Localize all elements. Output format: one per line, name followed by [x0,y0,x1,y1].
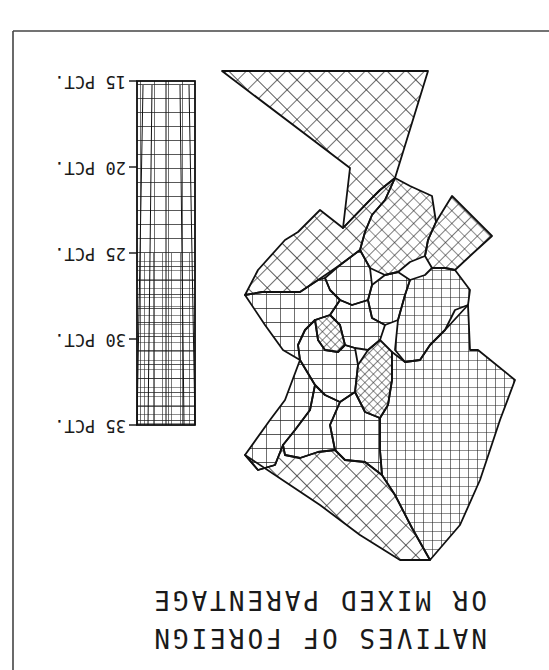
map-title: NATIVES OF FOREIGN OR MIXED PARENTAGE [151,585,487,653]
tract-northeast-tip [425,196,492,270]
title-line-1: NATIVES OF FOREIGN [151,623,487,653]
legend-label-30: 30 PCT. [54,330,126,350]
legend-label-15: 15 PCT. [54,72,126,92]
choropleth-map [222,71,515,560]
legend [129,81,195,425]
title-line-2: OR MIXED PARENTAGE [151,585,487,615]
legend-label-25: 25 PCT. [54,244,126,264]
legend-label-35: 35 PCT. [54,416,126,436]
map-figure: 15 PCT. 20 PCT. 25 PCT. 30 PCT. 35 PCT. … [0,0,549,670]
legend-labels: 15 PCT. 20 PCT. 25 PCT. 30 PCT. 35 PCT. [54,72,126,436]
legend-label-20: 20 PCT. [54,158,126,178]
